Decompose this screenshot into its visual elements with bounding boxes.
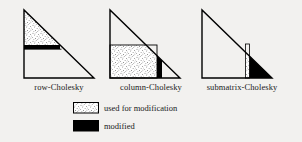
legend-label-modified: modified bbox=[104, 121, 135, 131]
submatrix-used-region bbox=[246, 44, 250, 78]
row-modified-region bbox=[24, 45, 60, 49]
submatrix-modified-region bbox=[250, 44, 273, 78]
legend-label-used-for-modification: used for modification bbox=[104, 103, 177, 113]
diagram-submatrix-cholesky bbox=[202, 10, 272, 78]
cholesky-variants-figure bbox=[0, 0, 302, 142]
column-modified-region bbox=[157, 45, 162, 78]
diagram-column-cholesky bbox=[110, 10, 180, 78]
column-used-region bbox=[110, 45, 157, 78]
diagram-row-cholesky bbox=[24, 10, 94, 78]
legend-swatch-used bbox=[74, 103, 99, 114]
submatrix-triangle-outline bbox=[202, 10, 272, 78]
legend bbox=[74, 103, 99, 132]
caption-submatrix-cholesky: submatrix-Cholesky bbox=[182, 82, 302, 92]
legend-swatch-modified bbox=[74, 121, 99, 132]
